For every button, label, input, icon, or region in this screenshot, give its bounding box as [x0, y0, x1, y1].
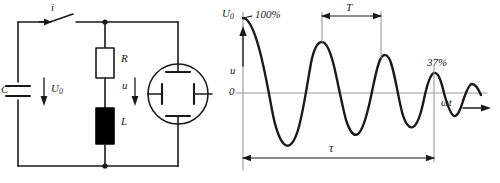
wt-arrow-head [481, 105, 491, 112]
time-constant-label: τ [329, 142, 333, 154]
capacitor-voltage-symbol: U [51, 82, 59, 94]
y-axis-top-label: U0 [222, 8, 234, 21]
decay-amplitude-label: 37% [427, 57, 447, 68]
capacitor-voltage-subscript: 0 [59, 87, 63, 96]
tube-voltage-label: u [122, 80, 128, 91]
figure-root: i C U0 R L u U0 u 0 100% T 37% τ ωt [0, 0, 500, 183]
resistor-body [96, 48, 114, 78]
resistor-label: R [121, 53, 128, 64]
damped-oscillation-curve [243, 18, 481, 146]
x-axis-label: ωt [441, 97, 452, 108]
period-label: T [346, 2, 352, 13]
inductor-body [96, 108, 114, 144]
initial-amplitude-label: 100% [255, 9, 281, 20]
junction-dot-top [102, 19, 107, 24]
inductor-label: L [121, 116, 127, 127]
capacitor-voltage-label: U0 [51, 83, 63, 96]
y-axis-top-subscript: 0 [230, 12, 234, 21]
current-label: i [51, 2, 54, 13]
figure-canvas [0, 0, 500, 183]
u-arrow-head [132, 96, 139, 106]
y-axis-arrow-head [239, 26, 246, 36]
y-axis-quantity-label: u [230, 65, 236, 76]
plot-origin-label: 0 [229, 86, 235, 97]
switch-blade [50, 14, 73, 22]
current-arrow-head [44, 19, 52, 26]
u0-arrow-head [41, 96, 48, 106]
capacitor-label: C [1, 84, 8, 95]
junction-dot-bottom [102, 163, 107, 168]
y-axis-top-symbol: U [222, 7, 230, 19]
